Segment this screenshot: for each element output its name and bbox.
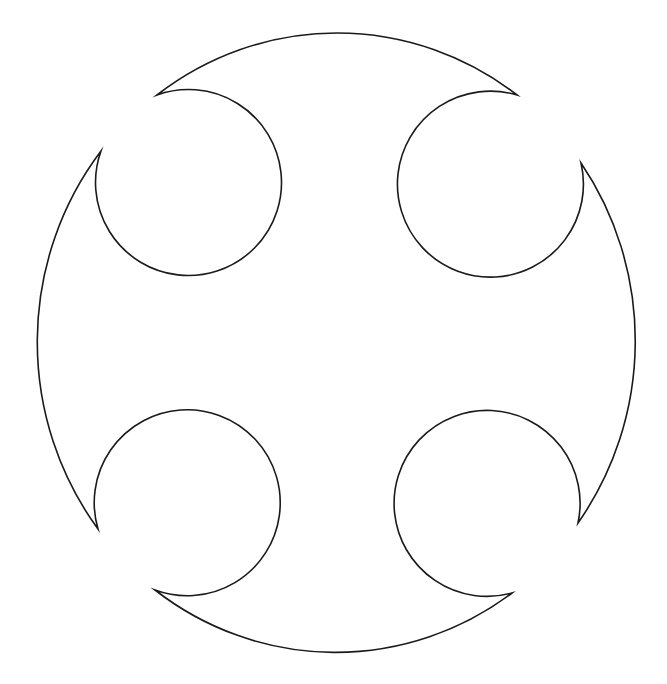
diagram-canvas: [0, 0, 667, 684]
circular-cross-shape: [37, 33, 635, 652]
